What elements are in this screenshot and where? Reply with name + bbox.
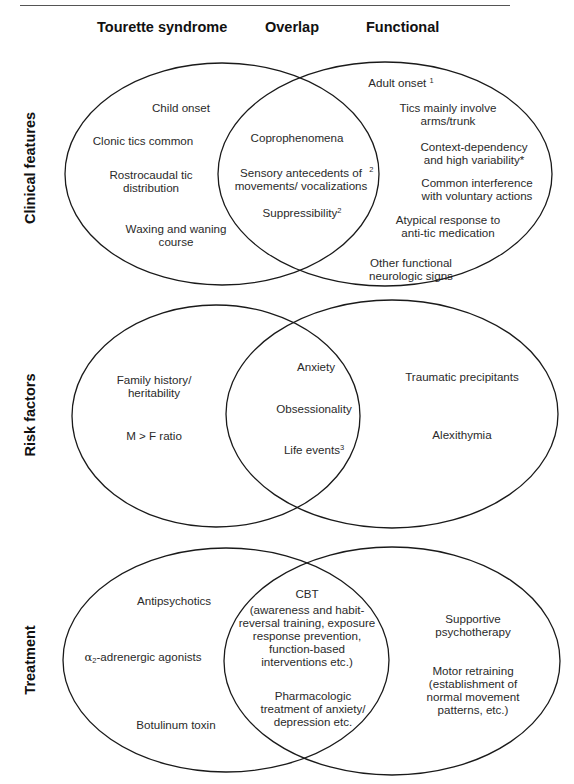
overlap-treatment-item: Pharmacologic treatment of anxiety/ depr… [260,689,365,728]
functional-clinical-item: Context-dependency and high variability* [421,140,528,166]
functional-clinical-item: Atypical response to anti-tic medication [396,213,500,239]
functional-risk-item: Alexithymia [432,428,491,441]
tourette-risk-item: M > F ratio [126,429,182,442]
functional-risk-item: Traumatic precipitants [405,370,519,383]
functional-treatment-item: Supportive psychotherapy [435,612,510,638]
overlap-treatment-item: (awareness and habit- reversal training,… [239,603,376,668]
functional-clinical-item: Common interference with voluntary actio… [421,176,532,202]
overlap-clinical-item: Suppressibility2 [263,206,342,219]
tourette-clinical-item: Waxing and waning course [126,222,227,248]
overlap-clinical-item: Sensory antecedents of movements/ vocali… [235,166,368,192]
ellipse-tourette-risk [72,305,360,527]
functional-clinical-item: Other functional neurologic signs [369,256,453,282]
tourette-clinical-item: Child onset [152,101,210,114]
overlap-risk-item: Obsessionality [276,402,351,415]
tourette-risk-item: Family history/ heritability [117,373,192,399]
overlap-risk-item: Anxiety [297,360,335,373]
tourette-treatment-item: α2-adrenergic agonists [84,650,201,664]
tourette-clinical-item: Clonic tics common [93,134,194,147]
tourette-clinical-item: Rostrocaudal tic distribution [109,168,192,194]
functional-clinical-item: Adult onset 1 [368,76,433,89]
tourette-treatment-item: Botulinum toxin [136,718,215,731]
overlap-risk-item: Life events3 [284,443,344,456]
functional-clinical-item: Tics mainly involve arms/trunk [400,101,497,127]
functional-treatment-item: Motor retraining (establishment of norma… [427,664,520,716]
overlap-treatment-item: CBT [295,587,318,600]
overlap-clinical-item: Coprophenomena [251,131,344,144]
tourette-treatment-item: Antipsychotics [137,594,211,607]
